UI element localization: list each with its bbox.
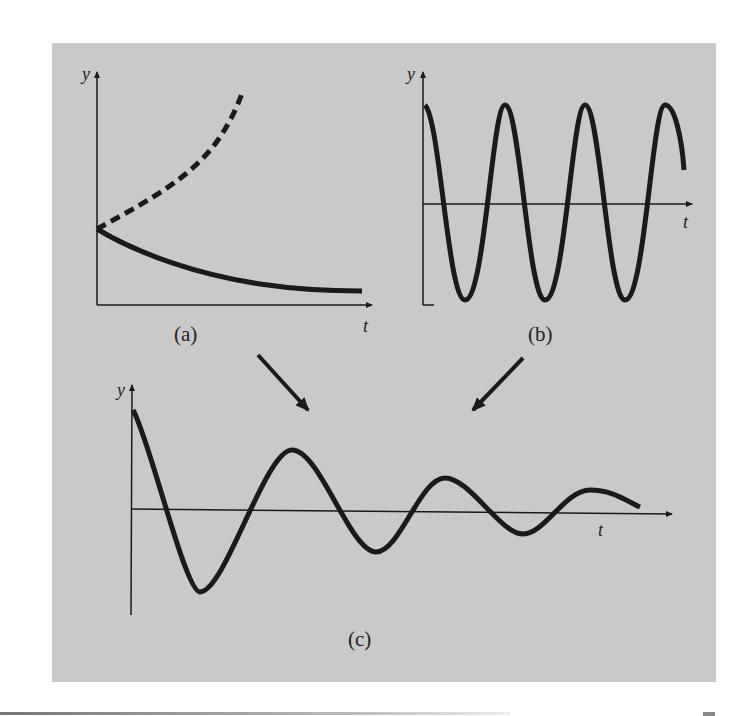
panel-c-y-label: y — [115, 380, 125, 400]
page-bottom-rule — [0, 712, 510, 715]
decay-curve-solid — [97, 229, 362, 291]
panel-b-caption: (b) — [528, 322, 553, 346]
figure-svg: y t (a) y t (b) y t (c) — [0, 0, 755, 716]
panel-a-y-label: y — [80, 64, 90, 84]
damped-oscillation-curve — [133, 410, 640, 592]
growth-curve-dashed — [97, 90, 243, 229]
arrow-a-to-c — [258, 355, 308, 410]
panel-c-y-axis — [131, 385, 132, 615]
panel-a: y t (a) — [80, 64, 372, 346]
panel-c-x-label: t — [598, 520, 604, 540]
panel-c-caption: (c) — [348, 627, 371, 651]
panel-a-caption: (a) — [174, 322, 197, 346]
panel-c: y t (c) — [115, 380, 672, 651]
panel-b-y-label: y — [405, 64, 415, 84]
panel-c-x-axis — [131, 509, 672, 514]
panel-a-x-label: t — [363, 316, 369, 336]
sinusoid-curve — [425, 105, 684, 300]
arrow-b-to-c — [473, 358, 523, 410]
panel-b-x-label: t — [683, 212, 689, 232]
panel-b: y t (b) — [405, 64, 692, 346]
page-bottom-mark — [703, 712, 715, 716]
